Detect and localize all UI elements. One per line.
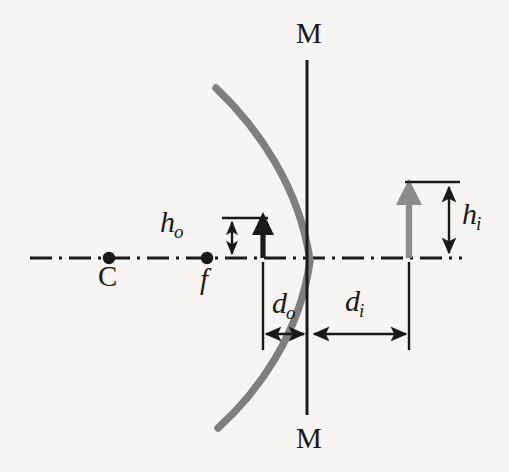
object-distance-label: do: [272, 288, 297, 318]
object-height-subscript: o: [174, 221, 184, 242]
center-of-curvature-label: C: [98, 262, 117, 291]
ray-diagram-canvas: M M C f ho hi do di: [0, 0, 509, 472]
object-height-symbol: h: [160, 205, 175, 238]
image-arrow: [396, 179, 422, 258]
image-distance-label: di: [345, 286, 365, 316]
image-height-label: hi: [462, 199, 482, 229]
mirror-label-bottom: M: [296, 424, 322, 453]
object-height-label: ho: [160, 207, 185, 237]
object-distance-subscript: o: [286, 302, 296, 323]
object-distance-symbol: d: [272, 286, 287, 319]
image-height-symbol: h: [462, 197, 477, 230]
focal-point-label: f: [200, 265, 208, 294]
image-distance-subscript: i: [359, 300, 364, 321]
diagram-vector-layer: [0, 0, 509, 472]
mirror-label-top: M: [296, 19, 322, 48]
image-height-subscript: i: [476, 213, 481, 234]
image-distance-symbol: d: [345, 284, 360, 317]
